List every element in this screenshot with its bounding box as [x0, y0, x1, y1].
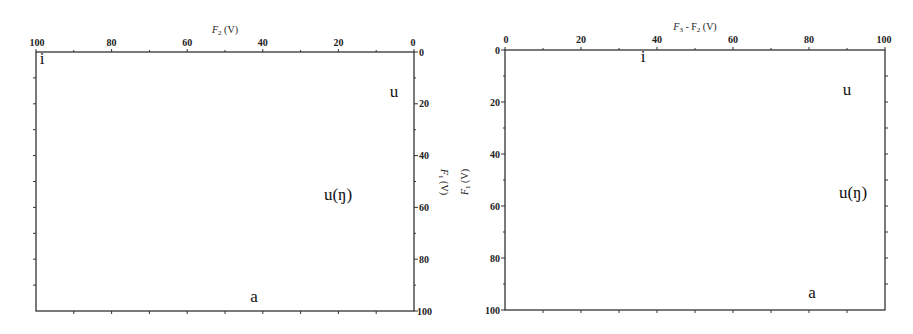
y-tick-label: 0: [495, 45, 500, 56]
x-tick-label: 60: [182, 37, 192, 48]
left-chart: 100 80 60 40 20 0 0 20 40 60 80 100 F2 (…: [30, 24, 451, 317]
x-tick-label: 80: [804, 34, 814, 45]
y-tick-label: 80: [419, 254, 429, 265]
y-tick-label: 100: [485, 305, 500, 316]
y-tick-label: 60: [419, 202, 429, 213]
vowel-label-a: a: [250, 287, 258, 306]
x-tick-label: 0: [411, 37, 416, 48]
vowel-label-i: i: [40, 49, 45, 68]
right-y-axis-title: F1 (V): [459, 169, 472, 196]
left-x-axis-title: F2 (V): [211, 24, 238, 37]
x-tick-label: 100: [30, 37, 45, 48]
left-y-tick-labels: 0 20 40 60 80 100: [417, 47, 432, 317]
left-plot-frame: [36, 52, 414, 311]
y-tick-label: 100: [417, 306, 432, 317]
vowel-label-u: u: [843, 80, 852, 99]
vowel-label-u-eng: u(ŋ): [839, 183, 867, 202]
y-tick-label: 20: [490, 97, 500, 108]
y-tick-label: 80: [490, 253, 500, 264]
y-tick-label: 40: [419, 150, 429, 161]
x-tick-label: 40: [258, 37, 268, 48]
x-tick-label: 0: [504, 34, 509, 45]
vowel-label-u-eng: u(ŋ): [324, 185, 352, 204]
left-y-axis-title: F1 (V): [437, 168, 450, 195]
y-tick-label: 60: [490, 201, 500, 212]
vowel-label-u: u: [390, 82, 399, 101]
x-tick-label: 40: [652, 34, 662, 45]
x-tick-label: 20: [576, 34, 586, 45]
y-tick-label: 40: [490, 149, 500, 160]
right-chart: 0 20 40 60 80 100 0 20 40 60 80 100 F3 -…: [459, 21, 892, 316]
x-tick-label: 100: [877, 34, 892, 45]
right-plot-frame: [505, 50, 885, 310]
left-x-tick-labels: 100 80 60 40 20 0: [30, 37, 416, 48]
right-x-tick-labels: 0 20 40 60 80 100: [504, 34, 892, 45]
y-tick-label: 20: [419, 98, 429, 109]
x-tick-label: 80: [107, 37, 117, 48]
figure: 100 80 60 40 20 0 0 20 40 60 80 100 F2 (…: [0, 0, 913, 334]
x-tick-label: 60: [728, 34, 738, 45]
y-tick-label: 0: [419, 47, 424, 58]
vowel-label-a: a: [808, 283, 816, 302]
x-tick-label: 20: [333, 37, 343, 48]
vowel-label-i: i: [641, 47, 646, 66]
right-y-tick-labels: 0 20 40 60 80 100: [485, 45, 500, 316]
right-x-axis-title: F3 - F2 (V): [672, 21, 716, 34]
